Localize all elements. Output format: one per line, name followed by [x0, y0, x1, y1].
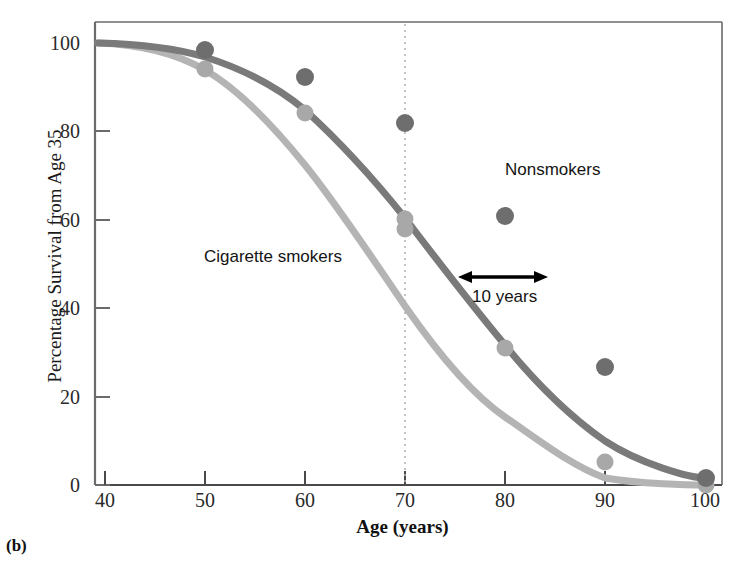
- figure-panel-b: 100 80 60 40 20 0 40 50 60 70 80 90 100 …: [0, 0, 732, 569]
- x-tick-label-70: 70: [375, 490, 435, 510]
- x-tick-label-60: 60: [275, 490, 335, 510]
- axis-frame: [95, 22, 722, 485]
- y-tick-label-0: 0: [20, 475, 80, 495]
- x-tick-label-100: 100: [675, 490, 732, 510]
- panel-letter: (b): [6, 536, 27, 556]
- y-tick-label-100: 100: [20, 33, 80, 53]
- y-tick-0: 0: [10, 475, 80, 495]
- x-tick-label-80: 80: [475, 490, 535, 510]
- y-axis-ticks: [95, 43, 110, 485]
- nonsmokers-curve: [98, 43, 706, 478]
- y-tick-100: 100: [10, 33, 80, 53]
- x-tick-60: 60: [275, 490, 335, 514]
- ten-years-double-arrow: [458, 271, 548, 283]
- y-axis-title: Percentage Survival from Age 35: [44, 56, 66, 456]
- x-tick-70: 70: [375, 490, 435, 514]
- x-tick-label-40: 40: [75, 490, 135, 510]
- nonsmokers-series-label: Nonsmokers: [505, 160, 600, 180]
- cigarette-smokers-curve: [98, 43, 706, 485]
- x-tick-label-90: 90: [575, 490, 635, 510]
- x-tick-80: 80: [475, 490, 535, 514]
- x-tick-40: 40: [75, 490, 135, 514]
- ten-years-gap-label: 10 years: [472, 287, 537, 307]
- x-axis-title: Age (years): [95, 516, 710, 538]
- x-tick-50: 50: [175, 490, 235, 514]
- x-tick-100: 100: [675, 490, 732, 514]
- x-tick-90: 90: [575, 490, 635, 514]
- survival-curve-chart: [0, 0, 732, 569]
- x-tick-label-50: 50: [175, 490, 235, 510]
- cigarette-smokers-series-label: Cigarette smokers: [204, 247, 342, 267]
